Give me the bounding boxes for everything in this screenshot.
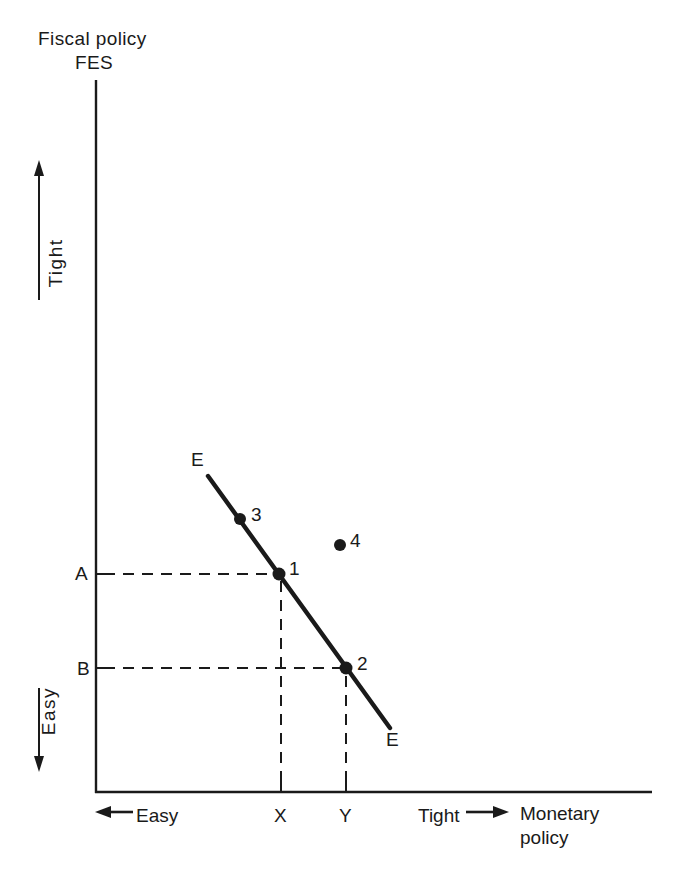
x-tick-label-x: X: [274, 805, 287, 827]
data-point-label-2: 2: [357, 653, 368, 675]
ee-schedule-line: [208, 476, 390, 728]
figure-canvas: Fiscal policy FES Tight Easy A B X Y Eas…: [0, 0, 679, 869]
data-point-label-1: 1: [289, 558, 300, 580]
y-tick-label-a: A: [75, 563, 88, 585]
ee-line-label-start: E: [191, 449, 204, 471]
y-axis-label-tight: Tight: [45, 203, 67, 323]
data-point-4: [334, 539, 346, 551]
y-axis-label-easy: Easy: [38, 656, 60, 766]
x-tick-label-y: Y: [339, 805, 352, 827]
data-point-label-3: 3: [251, 504, 262, 526]
x-axis-tight-arrow: [466, 806, 509, 818]
x-axis-easy-arrow: [95, 806, 133, 818]
chart-svg: [0, 0, 679, 869]
x-axis-label-tight: Tight: [418, 805, 460, 827]
figure-title-line1: Fiscal policy: [38, 28, 147, 50]
x-axis-title-line2: policy: [520, 827, 569, 849]
data-point-label-4: 4: [350, 530, 361, 552]
figure-title-line2: FES: [75, 52, 113, 74]
data-point-2: [340, 662, 353, 675]
data-point-3: [234, 513, 246, 525]
x-axis-title-line1: Monetary: [520, 803, 599, 825]
ee-line-label-end: E: [386, 729, 399, 751]
x-axis-label-easy: Easy: [136, 805, 178, 827]
y-tick-label-b: B: [77, 658, 90, 680]
y-axis-tight-arrow: [34, 160, 44, 300]
data-point-1: [273, 568, 286, 581]
